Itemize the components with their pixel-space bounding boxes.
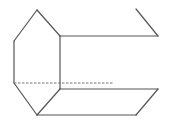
prism-diagram (0, 0, 170, 123)
hex-bottom-left-line (14, 83, 37, 115)
bottom-far-slant-line (136, 89, 158, 115)
hex-top-right-line (37, 10, 60, 36)
hex-bottom-right-line (37, 89, 60, 115)
top-far-slant-line (136, 9, 158, 36)
hex-top-left-line (14, 10, 37, 41)
visible-edges (14, 9, 158, 115)
